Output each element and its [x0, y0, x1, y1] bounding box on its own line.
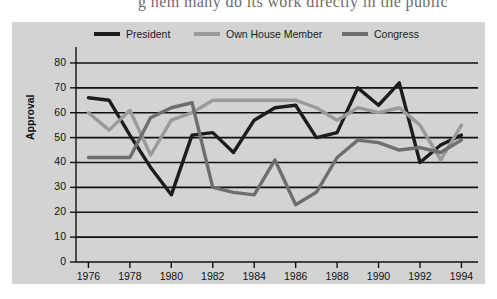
series-line-congress — [88, 103, 461, 205]
x-tick-label: 1978 — [110, 270, 150, 282]
figure-container: President Own House Member Congress Appr… — [12, 22, 485, 284]
line-chart-svg — [12, 22, 485, 284]
y-tick-label: 60 — [42, 106, 66, 118]
y-tick-label: 70 — [42, 81, 66, 93]
y-tick-label: 10 — [42, 230, 66, 242]
x-tick-label: 1984 — [234, 270, 274, 282]
series-lines-group — [88, 83, 461, 205]
x-tick-label: 1988 — [317, 270, 357, 282]
y-tick-label: 40 — [42, 155, 66, 167]
plot-area — [12, 22, 485, 284]
y-tick-label: 30 — [42, 180, 66, 192]
y-tick-label: 50 — [42, 131, 66, 143]
x-tick-label: 1994 — [441, 270, 481, 282]
x-tick-label: 1982 — [193, 270, 233, 282]
y-tick-label: 80 — [42, 56, 66, 68]
x-tick-label: 1990 — [359, 270, 399, 282]
x-tick-label: 1992 — [400, 270, 440, 282]
x-tick-marks-group — [88, 262, 461, 268]
y-tick-label: 20 — [42, 205, 66, 217]
y-tick-label: 0 — [42, 255, 66, 267]
page-caption-strip: g hem many do its work directly in the p… — [0, 0, 497, 20]
caption-text: g hem many do its work directly in the p… — [138, 0, 448, 11]
x-tick-label: 1976 — [68, 270, 108, 282]
x-tick-label: 1986 — [276, 270, 316, 282]
x-tick-label: 1980 — [151, 270, 191, 282]
